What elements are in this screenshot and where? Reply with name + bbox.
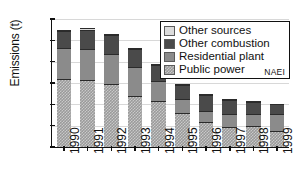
x-axis-tick <box>63 146 65 151</box>
legend-label-residential-plant: Residential plant <box>179 51 264 63</box>
bar-segment-other-sources[interactable] <box>199 94 214 95</box>
x-axis-tick <box>253 146 255 151</box>
x-axis-tick-label: 1990 <box>69 127 81 154</box>
legend-label-public-power: Public power <box>179 64 245 76</box>
bar-segment-other-combustion[interactable] <box>80 30 95 49</box>
y-axis-tick <box>50 18 55 20</box>
bar-segment-other-combustion[interactable] <box>222 100 237 114</box>
bar-segment-other-combustion[interactable] <box>57 31 72 48</box>
bar-segment-other-sources[interactable] <box>270 104 285 105</box>
x-axis-tick-label: 1997 <box>235 127 247 154</box>
x-axis-tick-label: 1999 <box>282 127 294 154</box>
x-axis-tick <box>158 146 160 151</box>
bar-segment-residential-plant[interactable] <box>104 54 119 84</box>
bar-segment-residential-plant[interactable] <box>151 81 166 101</box>
x-axis-tick-label: 1998 <box>258 127 270 154</box>
x-axis-tick-label: 1994 <box>164 127 176 154</box>
bar-segment-other-sources[interactable] <box>175 84 190 85</box>
bar-segment-other-sources[interactable] <box>80 28 95 30</box>
chart-legend: Other sources Other combustion Residenti… <box>160 21 290 79</box>
legend-label-other-combustion: Other combustion <box>179 38 270 50</box>
bar-segment-other-combustion[interactable] <box>246 102 261 114</box>
legend-swatch-other-sources-icon <box>164 26 175 36</box>
bar-segment-residential-plant[interactable] <box>57 48 72 79</box>
x-axis-tick-label: 1992 <box>116 127 128 154</box>
bar-segment-residential-plant[interactable] <box>199 111 214 123</box>
bar-segment-other-sources[interactable] <box>246 101 261 102</box>
y-axis-tick <box>50 146 55 148</box>
legend-item-other-sources: Other sources <box>164 24 286 37</box>
x-axis-tick-label: 1993 <box>140 127 152 154</box>
y-axis-tick <box>50 82 55 84</box>
bar-segment-residential-plant[interactable] <box>246 114 261 126</box>
legend-swatch-residential-plant-icon <box>164 52 175 62</box>
x-axis-tick <box>229 146 231 151</box>
legend-label-other-sources: Other sources <box>179 25 251 37</box>
y-axis-title: Emissions (t) <box>8 0 22 108</box>
bar-segment-other-sources[interactable] <box>222 99 237 100</box>
y-axis-tick <box>50 125 55 127</box>
y-axis-tick <box>50 61 55 63</box>
bar-segment-other-combustion[interactable] <box>270 104 285 114</box>
legend-item-other-combustion: Other combustion <box>164 37 286 50</box>
legend-swatch-public-power-icon <box>164 65 175 75</box>
y-axis-tick <box>50 104 55 106</box>
bar-segment-other-combustion[interactable] <box>128 49 143 67</box>
x-axis-tick <box>182 146 184 151</box>
bar-segment-other-sources[interactable] <box>128 48 143 49</box>
legend-item-residential-plant: Residential plant <box>164 50 286 63</box>
bar-segment-other-combustion[interactable] <box>175 85 190 99</box>
x-axis-tick <box>205 146 207 151</box>
x-axis-tick <box>111 146 113 151</box>
y-axis-tick <box>50 40 55 42</box>
bar-segment-other-combustion[interactable] <box>199 95 214 111</box>
naei-watermark: NAEI <box>264 67 285 77</box>
emissions-stacked-bar-chart: Emissions (t) 02040608010012019901991199… <box>0 0 295 195</box>
x-axis-tick <box>87 146 89 151</box>
bar-segment-other-sources[interactable] <box>104 34 119 35</box>
x-axis-tick <box>134 146 136 151</box>
legend-swatch-other-combustion-icon <box>164 39 175 49</box>
x-axis-tick-label: 1996 <box>211 127 223 154</box>
bar-segment-residential-plant[interactable] <box>80 49 95 80</box>
bar-segment-residential-plant[interactable] <box>222 114 237 127</box>
bar-segment-residential-plant[interactable] <box>128 67 143 96</box>
bar-segment-other-sources[interactable] <box>57 30 72 31</box>
bar-segment-other-combustion[interactable] <box>104 35 119 54</box>
x-axis-tick-label: 1991 <box>93 127 105 154</box>
bar-segment-residential-plant[interactable] <box>175 99 190 113</box>
legend-item-public-power: Public power NAEI <box>164 63 286 76</box>
x-axis-tick-label: 1995 <box>187 127 199 154</box>
x-axis-tick <box>276 146 278 151</box>
